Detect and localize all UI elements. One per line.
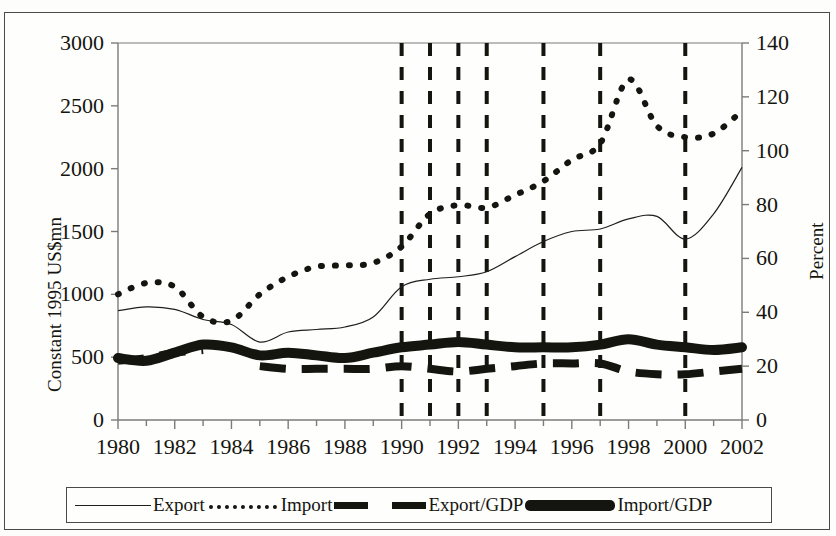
y-tick-label-right: 60 <box>756 245 778 270</box>
x-tick-label: 1988 <box>323 434 367 459</box>
x-tick-label: 1992 <box>436 434 480 459</box>
legend-item-export-gdp: Export/GDP <box>334 494 525 516</box>
x-tick-label: 1986 <box>266 434 310 459</box>
series-line-export-gdp <box>260 363 742 375</box>
y-tick-label-right: 140 <box>756 30 789 55</box>
legend-label-import: Import <box>279 494 335 516</box>
y-tick-label-right: 120 <box>756 84 789 109</box>
thick-dashed-swatch <box>334 499 426 511</box>
x-tick-label: 1982 <box>153 434 197 459</box>
y-tick-label-left: 3000 <box>60 30 104 55</box>
y-tick-label-left: 2000 <box>60 156 104 181</box>
y-tick-label-left: 1000 <box>60 281 104 306</box>
thin-line-swatch <box>75 499 151 511</box>
dotted-line-swatch <box>207 499 279 511</box>
x-tick-label: 1996 <box>550 434 594 459</box>
y-axis-title-left: Constant 1995 US$mn <box>44 217 66 392</box>
legend-item-import: Import <box>207 494 335 516</box>
x-tick-label: 2002 <box>720 434 764 459</box>
y-tick-label-left: 0 <box>93 407 104 432</box>
y-tick-label-right: 80 <box>756 192 778 217</box>
legend-label-export-gdp: Export/GDP <box>426 494 525 516</box>
y-tick-label-left: 1500 <box>60 219 104 244</box>
y-tick-label-right: 0 <box>756 407 767 432</box>
legend-label-import-gdp: Import/GDP <box>615 494 714 516</box>
y-tick-label-right: 20 <box>756 353 778 378</box>
x-tick-label: 2000 <box>663 434 707 459</box>
thick-solid-swatch <box>525 500 615 511</box>
legend-item-import-gdp: Import/GDP <box>525 494 714 516</box>
x-tick-label: 1998 <box>607 434 651 459</box>
y-tick-label-left: 2500 <box>60 93 104 118</box>
x-tick-label: 1984 <box>209 434 253 459</box>
y-tick-label-right: 40 <box>756 299 778 324</box>
chart-figure: 0500100015002000250030000204060801001201… <box>0 0 836 536</box>
y-tick-label-right: 100 <box>756 138 789 163</box>
y-axis-title-right: Percent <box>806 222 828 280</box>
y-tick-label-left: 500 <box>71 344 104 369</box>
legend-label-export: Export <box>151 494 207 516</box>
chart-legend: Export Import Export/GDP Import/GDP <box>66 487 772 523</box>
x-tick-label: 1994 <box>493 434 537 459</box>
x-tick-label: 1990 <box>380 434 424 459</box>
legend-item-export: Export <box>75 494 207 516</box>
chart-plot-area: 0500100015002000250030000204060801001201… <box>0 0 836 536</box>
x-tick-label: 1980 <box>96 434 140 459</box>
